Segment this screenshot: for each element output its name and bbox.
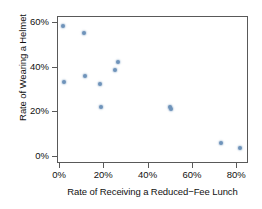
x-tick-label: 80% — [216, 170, 256, 180]
scatter-chart: Rate of Wearing a Helmet 0%20%40%60% 0%2… — [0, 0, 262, 209]
x-tick-mark — [236, 163, 237, 168]
x-tick-label: 0% — [39, 170, 79, 180]
x-axis-title: Rate of Receiving a Reduced−Fee Lunch — [57, 186, 248, 197]
y-tick-mark — [52, 22, 57, 23]
x-tick-label: 40% — [128, 170, 168, 180]
x-tick-mark — [148, 163, 149, 168]
y-tick-mark — [52, 67, 57, 68]
y-tick-label: 60% — [9, 17, 49, 27]
data-point — [116, 60, 120, 64]
x-tick-mark — [192, 163, 193, 168]
data-point — [62, 80, 66, 84]
y-tick-label: 40% — [9, 62, 49, 72]
x-tick-mark — [59, 163, 60, 168]
data-point — [169, 107, 173, 111]
x-tick-mark — [103, 163, 104, 168]
data-point — [99, 105, 103, 109]
x-tick-label: 60% — [172, 170, 212, 180]
data-point — [83, 74, 87, 78]
y-tick-mark — [52, 156, 57, 157]
y-tick-label: 20% — [9, 106, 49, 116]
x-tick-label: 20% — [83, 170, 123, 180]
y-tick-mark — [52, 111, 57, 112]
y-tick-label: 0% — [9, 151, 49, 161]
